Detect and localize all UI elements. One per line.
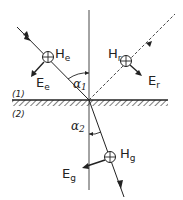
refracted-arrowhead-icon xyxy=(117,180,123,189)
h-field-refracted-icon xyxy=(105,152,116,163)
label-e-incident: Ee xyxy=(36,75,50,92)
label-medium-1: (1) xyxy=(12,89,25,99)
label-h-reflected: Hr xyxy=(108,46,122,63)
label-e-refracted: Eg xyxy=(62,166,76,183)
reflected-ray xyxy=(89,14,175,100)
refracted-ray xyxy=(89,100,124,197)
label-h-incident: He xyxy=(55,46,71,63)
e-field-reflected-vector xyxy=(130,65,142,76)
label-medium-2: (2) xyxy=(12,109,25,119)
e-field-refracted-vector xyxy=(82,160,105,169)
label-alpha2: α2 xyxy=(71,119,85,134)
label-alpha1: α1 xyxy=(73,77,87,92)
label-e-reflected: Er xyxy=(148,73,160,90)
e-refracted-arrowhead-icon xyxy=(82,163,89,169)
em-wave-diagram: He Ee Hr Er Hg Eg α1 α2 (1) (2) xyxy=(0,0,183,200)
h-field-reflected-icon xyxy=(121,56,132,67)
label-h-refracted: Hg xyxy=(120,146,136,163)
angle-alpha2-arc xyxy=(89,132,101,136)
h-field-incident-icon xyxy=(43,52,54,63)
